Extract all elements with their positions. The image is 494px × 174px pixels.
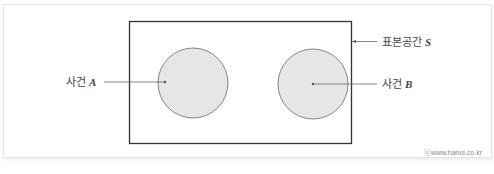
sample-space-variable: S bbox=[425, 36, 431, 48]
copyright-watermark: ⓒwww.hanol.co.kr bbox=[424, 147, 482, 157]
event-a-circle bbox=[158, 48, 228, 118]
event-b-label: 사건B bbox=[382, 78, 412, 91]
event-a-label-text: 사건 bbox=[66, 76, 86, 89]
event-a-pointer-dot bbox=[164, 81, 166, 83]
sample-space-label: 표본공간S bbox=[382, 36, 431, 49]
sample-space-arrowhead bbox=[352, 40, 356, 43]
event-a-variable: A bbox=[89, 76, 96, 88]
event-b-pointer-dot bbox=[312, 83, 314, 85]
event-b-label-text: 사건 bbox=[382, 78, 402, 91]
sample-space-label-text: 표본공간 bbox=[382, 36, 422, 49]
event-b-variable: B bbox=[405, 78, 412, 90]
event-a-label: 사건A bbox=[66, 76, 96, 89]
